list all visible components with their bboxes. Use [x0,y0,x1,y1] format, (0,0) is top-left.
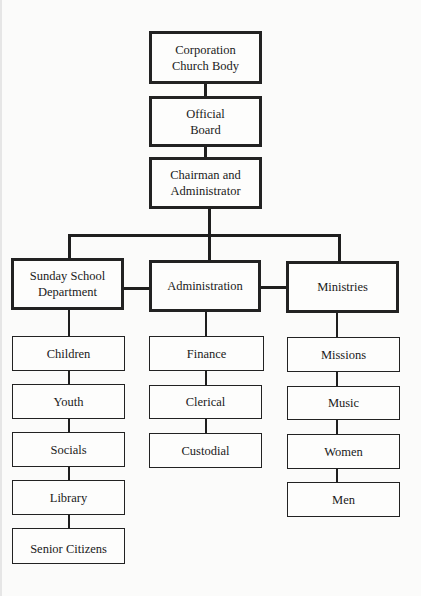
node-label: Music [328,395,359,411]
connector-bus-administration [208,234,211,261]
node-label: Finance [187,346,227,362]
node-finance: Finance [149,336,264,371]
node-label: Senior Citizens [30,535,107,557]
connector-administration-ministries [261,286,287,289]
connector-women-men [336,469,338,482]
node-children: Children [12,336,125,371]
connector-finance-clerical [205,371,207,385]
connector-board-chairman [204,147,207,157]
node-women: Women [287,434,400,469]
connector-chairman-bus [208,209,211,236]
node-sunday-school-department: Sunday School Department [11,258,124,310]
node-label: Women [324,444,363,460]
node-socials: Socials [12,432,125,467]
connector-library-senior-citizens [68,515,70,528]
node-label: Clerical [186,394,226,410]
node-official-board: Official Board [149,96,262,147]
node-chairman-administrator: Chairman and Administrator [149,157,262,209]
node-label: Socials [50,442,86,458]
connector-sunday-school-children [68,310,70,336]
connector-department-bus [68,234,341,237]
node-youth: Youth [12,384,125,419]
node-label: Ministries [317,279,368,295]
node-missions: Missions [287,337,400,372]
node-administration: Administration [149,260,261,312]
connector-sunday-school-administration [124,287,149,290]
connector-corporation-board [204,84,207,96]
connector-administration-finance [205,312,207,336]
node-label: Administration [167,278,243,294]
connector-music-women [336,420,338,434]
connector-children-youth [68,371,70,384]
connector-missions-music [336,372,338,386]
node-label: Corporation Church Body [172,42,239,74]
node-music: Music [287,386,400,420]
node-ministries: Ministries [286,261,399,313]
node-library: Library [12,480,125,515]
node-label: Missions [321,347,366,363]
node-corporation-church-body: Corporation Church Body [149,31,262,84]
node-label: Chairman and Administrator [170,167,240,199]
node-label: Men [332,492,355,508]
node-label: Custodial [182,443,230,459]
connector-bus-sunday-school [68,234,71,259]
connector-clerical-custodial [205,419,207,433]
connector-ministries-missions [336,313,338,337]
connector-youth-socials [68,419,70,432]
node-label: Official Board [186,106,225,138]
node-senior-citizens: Senior Citizens [12,528,125,564]
node-label: Sunday School Department [30,268,105,300]
connector-socials-library [68,467,70,480]
node-custodial: Custodial [149,433,262,468]
node-label: Children [47,346,91,362]
node-label: Library [50,490,87,506]
node-men: Men [287,482,400,517]
connector-bus-ministries [338,234,341,262]
node-label: Youth [54,394,84,410]
node-clerical: Clerical [149,385,262,419]
scan-edge [0,0,2,596]
